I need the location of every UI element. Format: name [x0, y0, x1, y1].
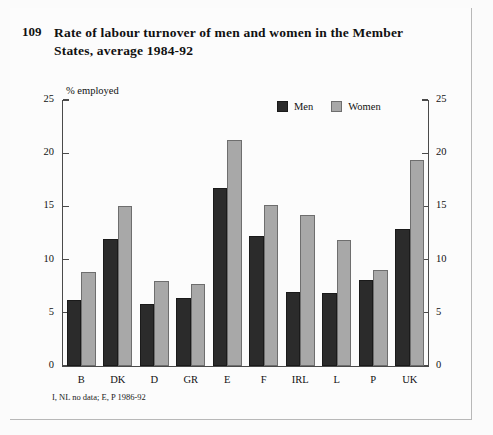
y-axis-right	[428, 100, 429, 367]
bar-group-dk	[100, 100, 137, 366]
bar-e-men	[213, 188, 228, 366]
x-label-b: B	[63, 374, 100, 385]
bar-irl-men	[286, 292, 301, 366]
bar-series-container	[63, 100, 428, 366]
plot-area: 00551010151520202525 BDKDGREFIRLLPUK	[62, 100, 429, 367]
x-axis	[62, 366, 429, 367]
bar-group-l	[319, 100, 356, 366]
x-label-gr: GR	[173, 374, 210, 385]
x-label-d: D	[136, 374, 173, 385]
bar-l-men	[322, 293, 337, 366]
y-tick-label-l-15: 15	[30, 199, 54, 210]
bar-b-men	[67, 300, 82, 366]
bar-group-f	[246, 100, 283, 366]
bar-group-uk	[392, 100, 429, 366]
bar-group-irl	[282, 100, 319, 366]
bar-group-e	[209, 100, 246, 366]
x-label-e: E	[209, 374, 246, 385]
bar-f-women	[264, 205, 279, 366]
bar-l-women	[337, 240, 352, 366]
bar-d-men	[140, 304, 155, 366]
bar-group-b	[63, 100, 100, 366]
y-tick-label-r-20: 20	[436, 146, 460, 157]
y-tick-label-l-20: 20	[30, 146, 54, 157]
x-label-irl: IRL	[282, 374, 319, 385]
bar-uk-women	[410, 160, 425, 366]
y-tick-label-l-0: 0	[30, 359, 54, 370]
y-tick-label-l-25: 25	[30, 93, 54, 104]
bar-d-women	[154, 281, 169, 366]
y-tick-label-r-10: 10	[436, 253, 460, 264]
y-tick-label-r-25: 25	[436, 93, 460, 104]
x-label-f: F	[246, 374, 283, 385]
bar-p-women	[373, 270, 388, 366]
y-tick-label-r-5: 5	[436, 306, 460, 317]
bar-f-men	[249, 236, 264, 366]
y-tick-label-l-10: 10	[30, 253, 54, 264]
bar-gr-women	[191, 284, 206, 366]
x-label-uk: UK	[392, 374, 429, 385]
bar-b-women	[81, 272, 96, 366]
bar-irl-women	[300, 215, 315, 366]
x-label-dk: DK	[100, 374, 137, 385]
y-tick-label-l-5: 5	[30, 306, 54, 317]
y-tick-label-r-0: 0	[436, 359, 460, 370]
bar-group-d	[136, 100, 173, 366]
bar-group-gr	[173, 100, 210, 366]
x-label-p: P	[355, 374, 392, 385]
y-tick-label-r-15: 15	[436, 199, 460, 210]
figure-number: 109	[22, 24, 42, 40]
bar-dk-women	[118, 206, 133, 366]
bar-dk-men	[103, 239, 118, 366]
bar-p-men	[359, 280, 374, 366]
x-label-l: L	[319, 374, 356, 385]
figure-page: 109 Rate of labour turnover of men and w…	[0, 0, 493, 435]
bar-group-p	[355, 100, 392, 366]
page-title: Rate of labour turnover of men and women…	[54, 24, 414, 60]
bar-gr-men	[176, 298, 191, 366]
figure-footnote: I, NL no data; E, P 1986-92	[52, 392, 146, 402]
bar-e-women	[227, 140, 242, 366]
bar-uk-men	[395, 229, 410, 366]
y-axis-unit-label: % employed	[66, 85, 119, 96]
